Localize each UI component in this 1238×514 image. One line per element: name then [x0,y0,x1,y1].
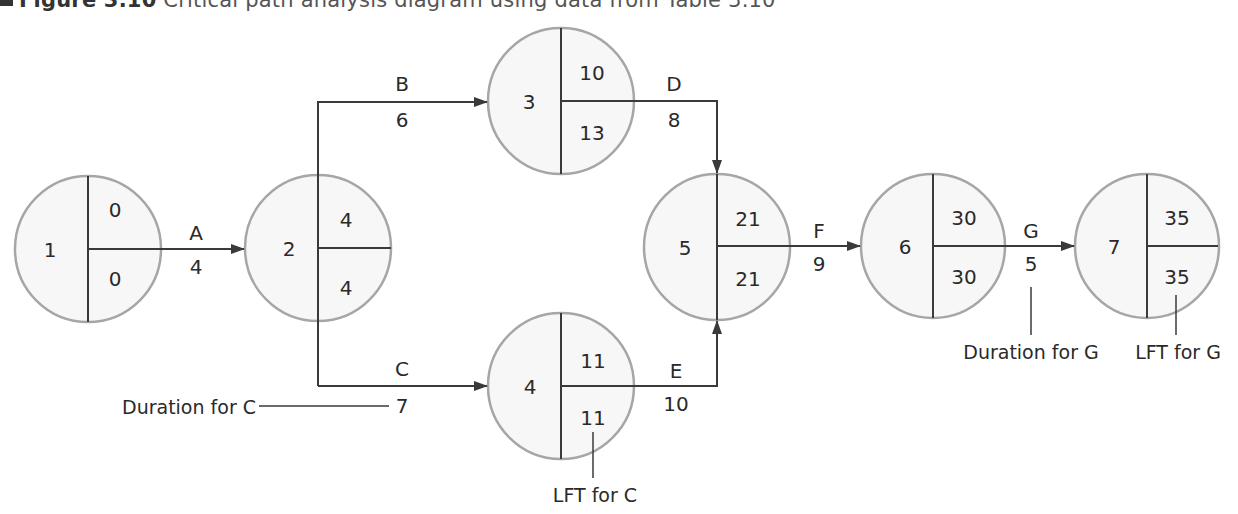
node-lft: 35 [1164,265,1189,289]
activity-duration: 6 [396,108,409,132]
activity-duration: 9 [813,252,826,276]
activity-name: B [395,72,409,96]
activity-name: F [813,219,825,243]
annotation-label: LFT for G [1135,341,1221,363]
node-lft: 30 [951,265,976,289]
node-number: 6 [899,235,912,259]
critical-path-diagram: 1 0 0 2 4 4 3 10 13 4 11 11 5 21 21 6 30 [0,0,1238,514]
activity-name: A [189,221,203,245]
node-number: 3 [523,90,536,114]
node-est: 0 [109,198,122,222]
node-est: 10 [579,61,604,85]
activity-name: E [670,359,683,383]
node-7: 7 35 35 [1075,174,1219,318]
node-est: 21 [735,207,760,231]
node-lft: 4 [340,276,353,300]
annotation-label: Duration for G [963,341,1098,363]
node-est: 11 [580,349,605,373]
node-lft: 13 [579,121,604,145]
node-lft: 0 [109,267,122,291]
activity-duration: 4 [190,255,203,279]
activity-duration: 7 [396,394,409,418]
activity-name: C [395,357,409,381]
node-lft: 11 [580,406,605,430]
node-number: 2 [283,237,296,261]
annotation-label: LFT for C [553,484,637,506]
activity-duration: 5 [1025,252,1038,276]
activity-name: D [666,72,681,96]
node-est: 30 [951,206,976,230]
node-number: 7 [1108,235,1121,259]
node-lft: 21 [735,267,760,291]
annotation-duration-c: Duration for C [122,396,389,418]
node-number: 5 [679,236,692,260]
node-est: 4 [340,208,353,232]
annotation-label: Duration for C [122,396,256,418]
node-number: 1 [44,238,57,262]
node-number: 4 [524,375,537,399]
activity-name: G [1023,219,1039,243]
node-est: 35 [1164,206,1189,230]
activity-duration: 8 [668,108,681,132]
activity-duration: 10 [663,392,688,416]
activity-c: C 7 [318,357,487,418]
